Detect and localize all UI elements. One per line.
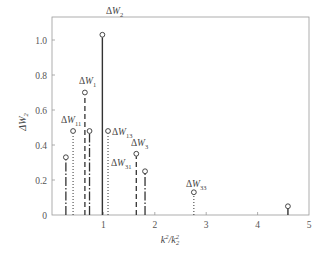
y-axis-title: ΔW2 — [17, 113, 29, 132]
x-tick-label: 4 — [255, 220, 260, 230]
y-tick-label: 0 — [42, 211, 47, 221]
stem-marker — [63, 155, 68, 160]
annotation-label: ΔW11 — [61, 115, 81, 127]
stem-marker — [87, 129, 92, 134]
stem-marker — [191, 190, 196, 195]
stem-marker — [106, 129, 111, 134]
stem-marker — [82, 90, 87, 95]
x-tick-label: 2 — [152, 220, 157, 230]
annotations: ΔW2ΔW1ΔW11ΔW13ΔW3ΔW31ΔW33 — [61, 6, 207, 191]
annotation-label: ΔW2 — [106, 6, 123, 18]
stems — [63, 32, 290, 215]
x-tick-label: 5 — [307, 220, 312, 230]
annotation-label: ΔW1 — [79, 76, 96, 88]
stem — [143, 169, 148, 215]
x-tick-label: 1 — [101, 220, 106, 230]
stem — [63, 155, 68, 215]
stem — [82, 90, 87, 215]
y-tick-label: 0.2 — [35, 176, 47, 186]
annotation-label: ΔW3 — [131, 138, 148, 150]
stem-marker — [100, 32, 105, 37]
stem-chart: 00.20.40.60.81.0 12345 ΔW2ΔW1ΔW11ΔW13ΔW3… — [0, 0, 322, 254]
stem-marker — [134, 151, 139, 156]
plot-frame — [52, 17, 309, 215]
annotation-label: ΔW31 — [111, 158, 132, 170]
stem-marker — [286, 204, 291, 209]
stem — [134, 151, 139, 215]
x-tick-label: 3 — [204, 220, 209, 230]
y-tick-label: 0.8 — [35, 71, 47, 81]
y-tick-label: 0.6 — [35, 106, 47, 116]
y-tick-label: 0.4 — [35, 141, 47, 151]
x-axis-title: k2/k22 — [161, 233, 180, 246]
stem — [191, 190, 196, 215]
annotation-label: ΔW13 — [112, 127, 133, 139]
annotation-label: ΔW33 — [186, 179, 207, 191]
stem — [100, 32, 105, 215]
stem — [87, 129, 92, 215]
y-tick-label: 1.0 — [35, 36, 47, 46]
stem-marker — [71, 129, 76, 134]
stem — [71, 129, 76, 215]
stem — [106, 129, 111, 215]
stem — [286, 204, 291, 215]
stem-marker — [143, 169, 148, 174]
